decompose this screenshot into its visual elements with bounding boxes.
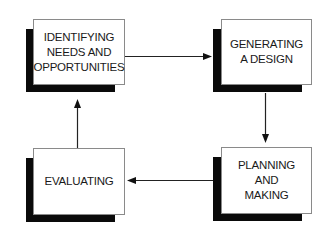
connector-arrows (0, 0, 330, 235)
arrowhead-left-icon (127, 177, 136, 184)
arrowhead-right-icon (203, 53, 212, 60)
arrowhead-down-icon (262, 134, 269, 143)
arrowhead-up-icon (74, 99, 81, 108)
